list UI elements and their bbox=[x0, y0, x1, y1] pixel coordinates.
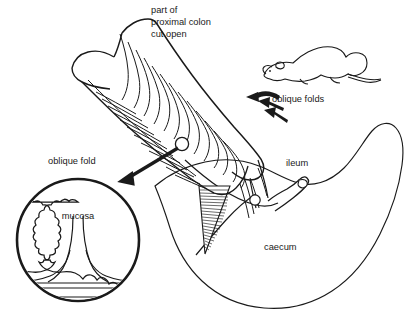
anatomical-figure: mucosa part of proximal colon cut open o… bbox=[0, 0, 411, 317]
title-line-1: part of bbox=[151, 5, 178, 15]
mucosa-label: mucosa bbox=[62, 211, 95, 221]
oblique-folds-label: oblique folds bbox=[272, 94, 325, 104]
caecum-label: caecum bbox=[264, 242, 297, 252]
ileum-label: ileum bbox=[286, 158, 308, 168]
junction-circle-marker-icon bbox=[250, 195, 260, 205]
mouse-eye bbox=[269, 70, 271, 72]
oblique-fold-label: oblique fold bbox=[48, 156, 96, 166]
title-line-3: cut open bbox=[151, 29, 187, 39]
ileum-lumen-ellipse bbox=[298, 180, 307, 188]
title-line-2: proximal colon bbox=[151, 17, 211, 27]
